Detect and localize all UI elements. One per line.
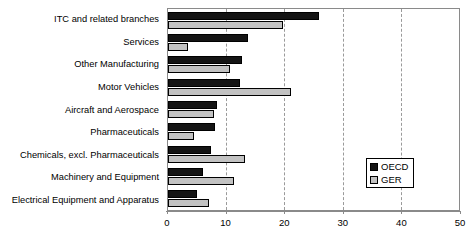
- bar-oecd: [168, 123, 215, 131]
- bar-row: [168, 9, 459, 31]
- bar-ger: [168, 43, 188, 51]
- tick-mark: [401, 211, 402, 214]
- bar-rows: [168, 9, 459, 210]
- tick-mark: [460, 211, 461, 214]
- tick-label: 30: [338, 217, 349, 228]
- category-label: Aircraft and Aerospace: [0, 98, 163, 121]
- bar-oecd: [168, 12, 319, 20]
- bar-oecd: [168, 56, 242, 64]
- legend-label: GER: [381, 174, 402, 185]
- tick-label: 0: [164, 217, 169, 228]
- category-label: Machinery and Equipment: [0, 166, 163, 189]
- bar-chart: ITC and related branches Services Other …: [0, 0, 474, 241]
- legend-item-ger: GER: [370, 174, 408, 185]
- bar-row: [168, 98, 459, 120]
- bar-oecd: [168, 79, 240, 87]
- axis-line: [166, 211, 461, 212]
- bar-ger: [168, 88, 291, 96]
- tick-mark: [167, 211, 168, 214]
- tick-label: 20: [279, 217, 290, 228]
- bar-ger: [168, 132, 194, 140]
- bar-row: [168, 31, 459, 53]
- bar-oecd: [168, 34, 248, 42]
- bar-row: [168, 165, 459, 187]
- tick-mark: [226, 211, 227, 214]
- tick-mark: [343, 211, 344, 214]
- tick-mark: [284, 211, 285, 214]
- bar-oecd: [168, 101, 217, 109]
- bar-ger: [168, 155, 245, 163]
- bar-row: [168, 121, 459, 143]
- legend: OECD GER: [366, 158, 414, 188]
- bar-ger: [168, 177, 234, 185]
- bar-oecd: [168, 190, 197, 198]
- value-axis: 01020304050: [167, 211, 460, 239]
- tick-label: 40: [396, 217, 407, 228]
- bar-oecd: [168, 168, 203, 176]
- bar-row: [168, 54, 459, 76]
- grey-square-icon: [370, 176, 378, 184]
- category-label: Other Manufacturing: [0, 53, 163, 76]
- category-label: Electrical Equipment and Apparatus: [0, 189, 163, 212]
- plot-inner: [168, 9, 459, 210]
- bar-row: [168, 143, 459, 165]
- black-square-icon: [370, 163, 378, 171]
- bar-row: [168, 188, 459, 210]
- category-axis: ITC and related branches Services Other …: [0, 8, 163, 211]
- tick-label: 10: [220, 217, 231, 228]
- category-label: Services: [0, 31, 163, 54]
- bar-ger: [168, 65, 230, 73]
- tick-label: 50: [455, 217, 466, 228]
- legend-item-oecd: OECD: [370, 161, 408, 172]
- bar-row: [168, 76, 459, 98]
- category-label: Motor Vehicles: [0, 76, 163, 99]
- bar-ger: [168, 110, 214, 118]
- bar-ger: [168, 199, 209, 207]
- category-label: Pharmaceuticals: [0, 121, 163, 144]
- plot-area: [167, 8, 460, 211]
- legend-label: OECD: [381, 161, 408, 172]
- bar-oecd: [168, 146, 211, 154]
- category-label: Chemicals, excl. Pharmaceuticals: [0, 143, 163, 166]
- bar-ger: [168, 21, 283, 29]
- category-label: ITC and related branches: [0, 8, 163, 31]
